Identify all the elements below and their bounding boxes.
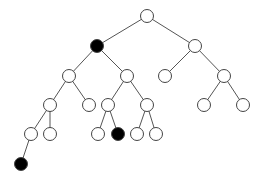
- tree-node: [44, 128, 57, 141]
- tree-node-marked: [91, 40, 104, 53]
- tree-node: [83, 99, 96, 112]
- tree-node: [121, 70, 134, 83]
- tree-node: [141, 99, 154, 112]
- tree-node: [63, 70, 76, 83]
- tree-diagram: [0, 0, 259, 180]
- tree-node: [198, 99, 211, 112]
- tree-node: [102, 99, 115, 112]
- tree-node: [131, 128, 144, 141]
- tree-node-marked: [112, 128, 125, 141]
- tree-node: [44, 99, 57, 112]
- tree-node: [237, 99, 250, 112]
- tree-node: [189, 40, 202, 53]
- tree-node: [159, 70, 172, 83]
- tree-node: [150, 128, 163, 141]
- tree-edge: [147, 16, 195, 46]
- tree-edges: [21, 16, 243, 164]
- tree-node: [141, 10, 154, 23]
- tree-node: [92, 128, 105, 141]
- tree-node: [218, 70, 231, 83]
- tree-edge: [97, 16, 147, 46]
- tree-node: [25, 128, 38, 141]
- tree-node-marked: [15, 158, 28, 171]
